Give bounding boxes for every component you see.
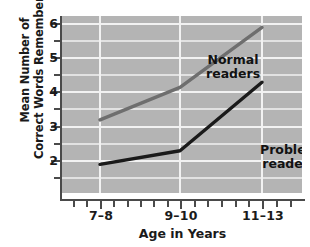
series-label-normal-readers: Normal readers xyxy=(206,53,260,82)
y-tick-minor-1-5 xyxy=(54,177,61,179)
y-tick-minor-3-5 xyxy=(54,108,61,110)
x-tick-minor-11 xyxy=(235,201,237,207)
x-tick-minor-14 xyxy=(290,201,292,207)
y-tick-label-6: 6 xyxy=(18,16,58,31)
series-label-problem-readers-line-1: Problem xyxy=(260,143,302,157)
x-tick-minor-1 xyxy=(73,201,75,207)
x-tick-minor-8 xyxy=(194,201,196,207)
x-axis-line xyxy=(60,199,305,201)
x-tick-minor-4 xyxy=(127,201,129,207)
y-tick-minor-5-5 xyxy=(54,40,61,42)
y-tick-minor-2-5 xyxy=(54,143,61,145)
x-tick-minor-9 xyxy=(207,201,209,207)
y-tick-label-4: 4 xyxy=(18,84,58,99)
x-tick-label-9-10: 9–10 xyxy=(151,208,211,223)
x-tick-minor-13 xyxy=(276,201,278,207)
series-label-normal-readers-line-1: Normal xyxy=(206,53,260,67)
x-tick-minor-6 xyxy=(153,201,155,207)
gridlines-horizontal-major xyxy=(62,24,302,161)
x-tick-label-7-8: 7–8 xyxy=(71,208,131,223)
y-tick-label-2: 2 xyxy=(18,153,58,168)
x-tick-minor-10 xyxy=(221,201,223,207)
y-tick-minor-4-5 xyxy=(54,74,61,76)
y-tick-label-5: 5 xyxy=(18,50,58,65)
series-label-problem-readers: Problem readers xyxy=(260,143,302,172)
chart-figure: Mean Number of Correct Words Remembered xyxy=(0,0,310,247)
x-tick-minor-7 xyxy=(167,201,169,207)
x-axis-title: Age in Years xyxy=(60,226,305,241)
y-tick-label-3: 3 xyxy=(18,119,58,134)
x-tick-minor-12 xyxy=(248,201,250,207)
series-label-problem-readers-line-2: readers xyxy=(260,157,302,171)
series-label-normal-readers-line-2: readers xyxy=(206,67,260,81)
plot-area: Normal readers Problem readers xyxy=(62,16,302,193)
x-tick-label-11-13: 11–13 xyxy=(233,208,293,223)
x-tick-minor-5 xyxy=(140,201,142,207)
x-tick-minor-3 xyxy=(113,201,115,207)
y-axis-title-line-1: Mean Number of xyxy=(19,18,33,123)
x-tick-minor-2 xyxy=(86,201,88,207)
